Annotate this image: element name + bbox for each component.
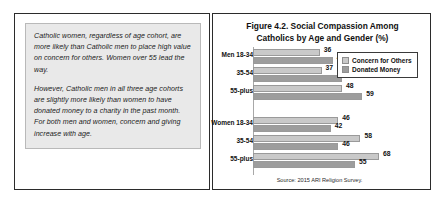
row-bars: 4859 bbox=[253, 83, 432, 101]
row-bars: 6855 bbox=[253, 151, 432, 169]
bar-donated[interactable] bbox=[253, 75, 342, 82]
chart-source-note: Source: 2015 ARI Religion Survey. bbox=[213, 177, 426, 183]
chart-plot-area: Concern for Others Donated Money Men 18-… bbox=[213, 47, 432, 175]
commentary-panel: Catholic women, regardless of age cohort… bbox=[14, 13, 210, 190]
chart-row: 55-plus6855 bbox=[213, 151, 432, 169]
bar-donated[interactable] bbox=[253, 125, 331, 132]
bar-donated-value: 59 bbox=[366, 90, 374, 97]
bar-concern-value: 58 bbox=[364, 132, 372, 139]
chart-row: 35-545846 bbox=[213, 133, 432, 151]
bar-concern-value: 68 bbox=[383, 150, 391, 157]
bar-concern[interactable] bbox=[253, 67, 322, 74]
bar-donated-value: 42 bbox=[335, 122, 343, 129]
commentary-paragraph-1: Catholic women, regardless of age cohort… bbox=[34, 31, 192, 76]
row-bars: 5846 bbox=[253, 133, 432, 151]
legend-item-concern[interactable]: Concern for Others bbox=[342, 56, 412, 65]
chart-title-line-1: Figure 4.2. Social Compassion Among bbox=[219, 21, 426, 33]
legend-label-donated: Donated Money bbox=[352, 66, 400, 73]
category-label: Men 18-34 bbox=[195, 51, 253, 58]
bar-concern-value: 46 bbox=[342, 114, 350, 121]
bar-donated[interactable] bbox=[253, 161, 355, 168]
bar-concern[interactable] bbox=[253, 49, 320, 56]
bar-donated[interactable] bbox=[253, 57, 333, 64]
commentary-callout-box: Catholic women, regardless of age cohort… bbox=[25, 23, 201, 149]
chart-row: 55-plus4859 bbox=[213, 83, 432, 101]
commentary-paragraph-2: However, Catholic men in all three age c… bbox=[34, 84, 192, 140]
bar-concern-value: 36 bbox=[324, 46, 332, 53]
figure-page: Catholic women, regardless of age cohort… bbox=[0, 0, 445, 202]
bar-donated[interactable] bbox=[253, 93, 362, 100]
bar-donated-value: 55 bbox=[359, 158, 367, 165]
legend-swatch-concern-icon bbox=[342, 57, 349, 64]
chart-panel: Figure 4.2. Social Compassion Among Cath… bbox=[212, 13, 431, 190]
category-label: 55-plus bbox=[195, 155, 253, 162]
category-label: Women 18-34 bbox=[195, 119, 253, 126]
chart-row: Women 18-344642 bbox=[213, 115, 432, 133]
bar-concern[interactable] bbox=[253, 85, 342, 92]
bar-concern-value: 37 bbox=[326, 64, 334, 71]
category-label: 35-54 bbox=[195, 137, 253, 144]
chart-title-line-2: Catholics by Age and Gender (%) bbox=[219, 33, 426, 45]
legend-label-concern: Concern for Others bbox=[352, 57, 412, 64]
category-label: 55-plus bbox=[195, 87, 253, 94]
bar-donated[interactable] bbox=[253, 143, 338, 150]
bar-concern[interactable] bbox=[253, 117, 338, 124]
bar-donated-value: 46 bbox=[342, 140, 350, 147]
row-bars: 4642 bbox=[253, 115, 432, 133]
legend-swatch-donated-icon bbox=[342, 66, 349, 73]
chart-title: Figure 4.2. Social Compassion Among Cath… bbox=[219, 21, 426, 44]
legend-item-donated[interactable]: Donated Money bbox=[342, 65, 412, 74]
bar-concern-value: 48 bbox=[346, 82, 354, 89]
category-label: 35-54 bbox=[195, 69, 253, 76]
chart-legend: Concern for Others Donated Money bbox=[337, 52, 418, 78]
